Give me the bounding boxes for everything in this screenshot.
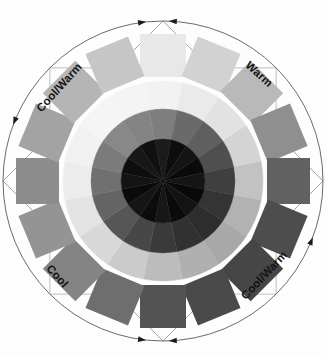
color-wheel-figure: Cool/Warm Warm Cool Cool/Warm	[0, 0, 327, 354]
swatch-rectangle	[140, 34, 186, 77]
arrowhead-icon	[169, 19, 177, 25]
swatch-rectangle	[267, 158, 310, 204]
outer-sector	[143, 81, 182, 110]
arrowhead-icon	[13, 116, 19, 124]
outer-sector	[234, 161, 263, 200]
color-wheel-diagram: Cool/Warm Warm Cool Cool/Warm	[0, 0, 327, 354]
outer-sector	[63, 161, 92, 200]
swatch-rectangle	[140, 285, 186, 328]
inner-color-ring	[121, 139, 205, 223]
arrowhead-icon	[138, 20, 146, 26]
swatch-rectangle	[16, 158, 59, 204]
arrowhead-icon	[307, 237, 313, 245]
arrowhead-icon	[138, 336, 146, 342]
arrowhead-icon	[169, 338, 177, 344]
outer-sector	[143, 252, 182, 281]
